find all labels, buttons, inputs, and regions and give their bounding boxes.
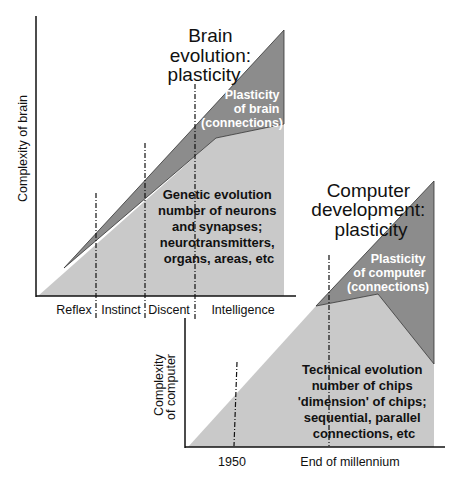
brain-panel: Brain evolution: plasticity Plasticity o… xyxy=(16,16,296,320)
brain-y-axis-label: Complexity of brain xyxy=(16,95,30,202)
computer-technical-label: Technical evolution number of chips 'dim… xyxy=(298,362,431,441)
tick-1950: 1950 xyxy=(218,455,246,469)
computer-y-axis-label-line2: of computer xyxy=(164,354,178,420)
stage-instinct: Instinct xyxy=(101,303,141,317)
computer-plasticity-label: Plasticity of computer (connections) xyxy=(347,252,429,294)
tick-end-of-millennium: End of millennium xyxy=(300,455,399,469)
stage-discent: Discent xyxy=(148,303,190,317)
diagram-canvas: Brain evolution: plasticity Plasticity o… xyxy=(0,0,458,485)
brain-genetic-label: Genetic evolution number of neurons and … xyxy=(158,187,280,266)
stage-reflex: Reflex xyxy=(56,303,92,317)
stage-intelligence: Intelligence xyxy=(211,303,274,317)
